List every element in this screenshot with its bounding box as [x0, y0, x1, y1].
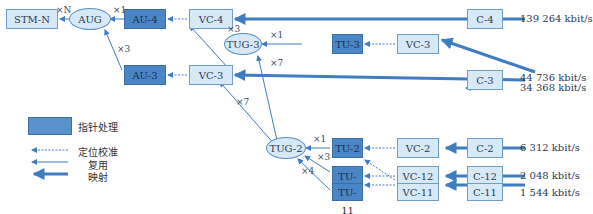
vc3-right-box: VC-3	[397, 34, 439, 54]
au4-box: AU-4	[124, 9, 166, 29]
rate-c11: 1 544 kbit/s	[520, 188, 580, 198]
mult-aug-au4: ×1	[113, 5, 126, 15]
tug3-ellipse: TUG-3	[224, 33, 262, 55]
c3-box: C-3	[467, 70, 503, 90]
mult-tug2-tu11: ×4	[301, 166, 314, 176]
au3-box: AU-3	[124, 65, 166, 85]
tu2-box: TU-2	[332, 138, 363, 158]
tu11-box: TU-11	[332, 183, 363, 201]
vc3-left-box: VC-3	[189, 65, 233, 85]
tu3-box: TU-3	[332, 34, 363, 54]
mult-tug2-tu12: ×3	[317, 152, 330, 162]
mult-stm-aug: ×N	[56, 5, 71, 15]
rate-c4: 139 264 kbit/s	[520, 14, 593, 24]
aug-ellipse: AUG	[69, 8, 111, 30]
mult-aug-au3: ×3	[117, 44, 130, 54]
mult-vc4-tug3: ×3	[227, 24, 240, 34]
legend-mapping-label: 映射	[88, 169, 108, 184]
mult-tug3-tu3: ×1	[270, 30, 283, 40]
stm-n-box: STM-N	[6, 9, 58, 29]
legend-pointer-swatch	[28, 117, 72, 135]
c4-box: C-4	[467, 9, 503, 29]
legend-line-icons	[28, 146, 72, 186]
vc11-box: VC-11	[397, 183, 439, 201]
legend-pointer-label: 指针处理	[78, 119, 118, 134]
mult-tug2-tu2: ×1	[313, 134, 326, 144]
rate-c3-b: 34 368 kbit/s	[520, 83, 586, 93]
mult-tug3-tug2: ×7	[270, 58, 283, 68]
tug2-ellipse: TUG-2	[266, 137, 306, 159]
vc2-box: VC-2	[397, 138, 439, 158]
rate-c12: 2 048 kbit/s	[520, 171, 580, 181]
c11-box: C-11	[467, 183, 503, 201]
mult-vc3-tug2: ×7	[236, 97, 249, 107]
rate-c2: 6 312 kbit/s	[520, 143, 580, 153]
c2-box: C-2	[467, 138, 503, 158]
